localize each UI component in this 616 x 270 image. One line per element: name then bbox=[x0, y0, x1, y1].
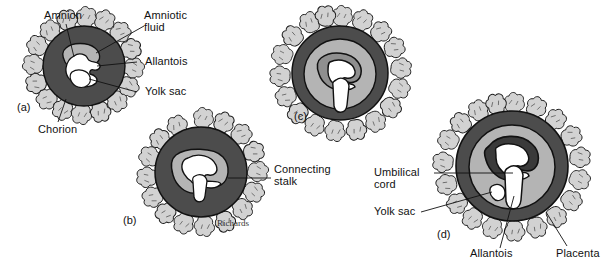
label-amniotic-fluid-line1: Amniotic bbox=[144, 10, 187, 22]
panel-label-b: (b) bbox=[123, 214, 136, 226]
label-amniotic-fluid-line2: fluid bbox=[144, 22, 165, 34]
label-yolk-sac-d: Yolk sac bbox=[374, 206, 415, 218]
panel-label-a: (a) bbox=[17, 101, 30, 113]
label-umbilical-cord-line1: Umbilical bbox=[374, 167, 420, 179]
label-yolk-sac-a: Yolk sac bbox=[145, 86, 186, 98]
panel-label-c: (c) bbox=[294, 110, 307, 122]
label-connecting-stalk-line2: stalk bbox=[274, 176, 297, 188]
panel-b-drawing bbox=[134, 107, 271, 238]
label-placenta: Placenta bbox=[556, 248, 600, 260]
panel-c-drawing bbox=[266, 2, 413, 144]
connecting-stalk-c bbox=[333, 78, 349, 112]
label-umbilical-cord-line2: cord bbox=[374, 179, 396, 191]
panel-d-drawing bbox=[421, 90, 593, 248]
diagram-canvas bbox=[0, 0, 616, 270]
umbilical-cord-d bbox=[505, 166, 523, 209]
connecting-stalk-b bbox=[193, 175, 207, 202]
label-allantois-d: Allantois bbox=[470, 248, 512, 260]
yolk-sac-a bbox=[70, 70, 90, 87]
panel-a-drawing bbox=[21, 6, 145, 126]
panel-label-d: (d) bbox=[437, 228, 450, 240]
embryo-development-figure: Amnion Amniotic fluid Allantois Yolk sac… bbox=[0, 0, 616, 270]
label-connecting-stalk-line1: Connecting bbox=[274, 164, 331, 176]
label-amnion: Amnion bbox=[44, 10, 82, 22]
artist-signature: Richards bbox=[217, 218, 249, 228]
label-allantois-a: Allantois bbox=[145, 56, 187, 68]
label-chorion: Chorion bbox=[38, 124, 77, 136]
